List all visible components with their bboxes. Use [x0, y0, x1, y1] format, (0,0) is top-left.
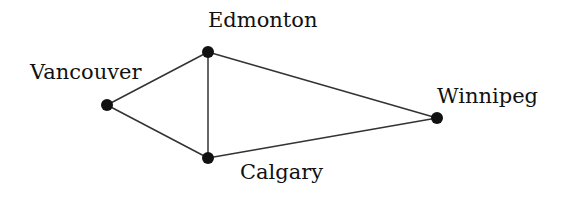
- node-label-winnipeg: Winnipeg: [437, 86, 538, 107]
- node-winnipeg: [431, 112, 443, 124]
- edge-edmonton-winnipeg: [208, 52, 437, 118]
- node-calgary: [202, 152, 214, 164]
- node-label-vancouver: Vancouver: [30, 62, 142, 83]
- graph-diagram: Vancouver Edmonton Calgary Winnipeg: [0, 0, 574, 197]
- edge-vancouver-calgary: [107, 105, 208, 158]
- node-edmonton: [202, 46, 214, 58]
- node-label-calgary: Calgary: [240, 162, 323, 183]
- node-label-edmonton: Edmonton: [208, 10, 317, 31]
- node-vancouver: [101, 99, 113, 111]
- edge-calgary-winnipeg: [208, 118, 437, 158]
